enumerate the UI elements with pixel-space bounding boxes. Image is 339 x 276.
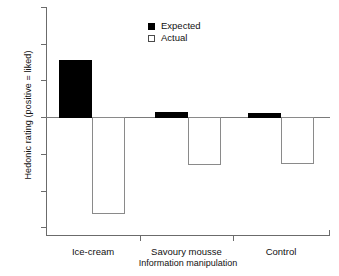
y-axis-title: Hedonic rating (positive = liked) [23,15,33,215]
hollow-square-icon [148,35,155,42]
y-tick-minus2 [41,191,46,192]
x-axis-line [46,235,330,236]
y-tick-minus3 [41,227,46,228]
legend: Expected Actual [148,20,201,44]
y-tick-2 [41,44,46,45]
x-group-separator-1 [140,236,141,241]
bar-expected-control[interactable] [248,113,281,118]
x-category-label-control: Control [233,246,329,257]
legend-label-expected: Expected [161,20,201,32]
legend-item-actual[interactable]: Actual [148,32,201,44]
legend-item-expected[interactable]: Expected [148,20,201,32]
bar-chart: Hedonic rating (positive = liked) 3 2 1 … [0,0,339,276]
x-axis-cap-left [46,230,47,236]
filled-square-icon [148,23,155,30]
x-axis-cap-right [329,230,330,236]
bar-actual-ice-cream[interactable] [92,117,125,214]
bar-expected-savoury-mousse[interactable] [155,112,188,119]
x-category-label-ice-cream: Ice-cream [46,246,140,257]
x-axis-title: Information manipulation [46,258,330,268]
bar-actual-savoury-mousse[interactable] [188,117,221,165]
y-tick-1 [41,80,46,81]
y-tick-minus1 [41,154,46,155]
x-group-separator-2 [233,236,234,241]
y-tick-3 [41,7,46,8]
bar-actual-control[interactable] [281,117,314,164]
bar-expected-ice-cream[interactable] [59,60,92,118]
x-category-label-savoury-mousse: Savoury mousse [140,246,233,257]
y-axis-line [46,7,47,236]
legend-label-actual: Actual [161,32,187,44]
